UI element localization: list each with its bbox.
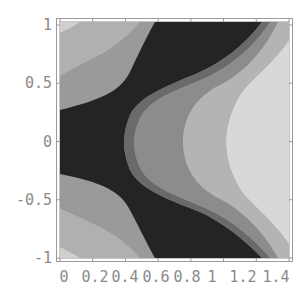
x-tick-label: 1.2 bbox=[229, 268, 256, 286]
x-tick-label: 0.2 bbox=[81, 268, 108, 286]
x-tick-label: 1.4 bbox=[262, 268, 289, 286]
y-tick-label: 0.5 bbox=[25, 74, 52, 92]
plot-area bbox=[60, 22, 289, 258]
y-tick-label: 0 bbox=[43, 133, 52, 151]
y-tick-label: -0.5 bbox=[16, 191, 52, 209]
x-tick-label: 0.8 bbox=[173, 268, 200, 286]
x-tick-label: 1 bbox=[207, 268, 216, 286]
y-tick-label: -1 bbox=[34, 249, 52, 267]
x-tick-label: 0.6 bbox=[142, 268, 169, 286]
x-tick-label: 0.4 bbox=[111, 268, 138, 286]
x-tick-label: 0 bbox=[59, 268, 68, 286]
y-tick-label: 1 bbox=[43, 16, 52, 34]
contour-chart: 00.20.40.60.811.21.4 -1-0.500.51 bbox=[0, 0, 304, 293]
